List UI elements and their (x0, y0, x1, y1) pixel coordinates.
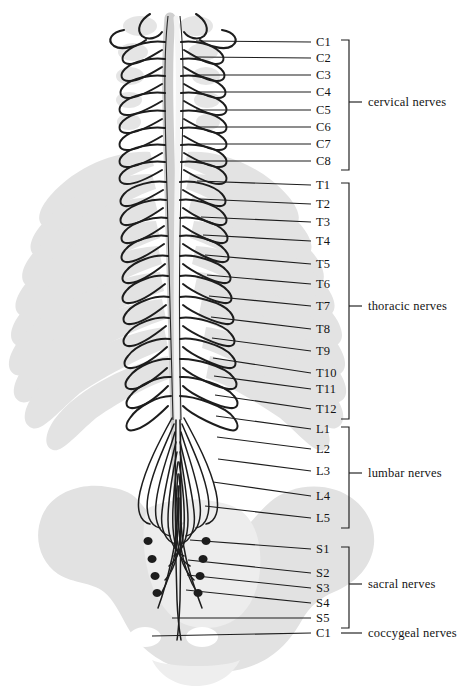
segment-label-c1-30: C1 (316, 627, 331, 640)
segment-label-t4-11: T4 (316, 235, 330, 248)
leader-line (201, 217, 311, 222)
segment-label-c2-1: C2 (316, 52, 331, 65)
segment-label-s3-27: S3 (316, 582, 330, 595)
segment-label-l3-22: L3 (316, 465, 330, 478)
segment-label-c7-6: C7 (316, 138, 331, 151)
segment-label-c6-5: C6 (316, 121, 331, 134)
segment-label-t12-19: T12 (316, 403, 337, 416)
segment-label-c5-4: C5 (316, 104, 331, 117)
leader-line (152, 633, 311, 636)
leader-line (216, 416, 311, 429)
group-bracket (341, 427, 349, 528)
segment-label-l4-23: L4 (316, 490, 330, 503)
right-sacral-root-nubs (194, 537, 211, 597)
leader-line (203, 235, 311, 241)
leader-line (213, 358, 311, 373)
leader-line (205, 506, 311, 518)
group-label-sacral: sacral nerves (368, 578, 436, 591)
leader-line (196, 41, 311, 42)
segment-label-t9-16: T9 (316, 345, 330, 358)
segment-label-t6-13: T6 (316, 278, 330, 291)
spinal-nerve-diagram: C1C2C3C4C5C6C7C8T1T2T3T4T5T6T7T8T9T10T11… (0, 0, 465, 689)
segment-label-c1-0: C1 (316, 36, 331, 49)
leader-line (212, 338, 311, 351)
leader-line (218, 459, 311, 471)
segment-label-s4-28: S4 (316, 597, 330, 610)
segment-label-t5-12: T5 (316, 258, 330, 271)
group-bracket (341, 183, 349, 419)
segment-label-t7-14: T7 (316, 300, 330, 313)
segment-label-c8-7: C8 (316, 155, 331, 168)
segment-label-c4-3: C4 (316, 86, 331, 99)
segment-label-t3-10: T3 (316, 216, 330, 229)
group-bracket (341, 40, 349, 170)
segment-label-t10-17: T10 (316, 367, 337, 380)
group-bracket (341, 547, 349, 628)
group-brackets (341, 40, 362, 633)
leader-line (196, 57, 311, 58)
segment-label-l2-21: L2 (316, 443, 330, 456)
segment-label-s2-26: S2 (316, 567, 330, 580)
leader-line (209, 296, 311, 306)
segment-label-t1-8: T1 (316, 179, 330, 192)
segment-label-s1-25: S1 (316, 543, 330, 556)
leader-line (187, 575, 311, 588)
leader-line (215, 395, 311, 409)
leader-line (188, 560, 311, 573)
segment-label-l5-24: L5 (316, 512, 330, 525)
leader-line (217, 437, 311, 449)
segment-label-s5-29: S5 (316, 612, 330, 625)
leader-line (214, 376, 311, 389)
group-label-thoracic: thoracic nerves (368, 300, 447, 313)
segment-label-c3-2: C3 (316, 69, 331, 82)
group-label-cervical: cervical nerves (368, 96, 446, 109)
group-label-coccygeal: coccygeal nerves (368, 627, 457, 640)
leader-line (199, 199, 311, 204)
group-label-lumbar: lumbar nerves (368, 467, 442, 480)
segment-label-l1-20: L1 (316, 423, 330, 436)
segment-label-t2-9: T2 (316, 198, 330, 211)
segment-label-t11-18: T11 (316, 383, 336, 396)
segment-label-t8-15: T8 (316, 323, 330, 336)
leader-line (213, 482, 311, 496)
left-sacral-root-nubs (144, 537, 162, 597)
leader-line (186, 590, 311, 603)
